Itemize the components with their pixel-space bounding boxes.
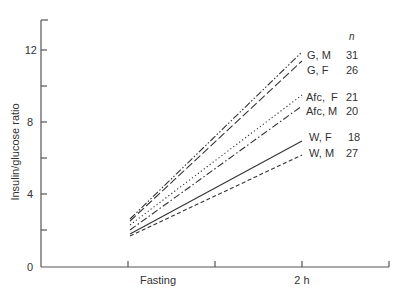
y-tick-label-0: 0 [27,261,33,273]
n-g-m: 31 [346,49,358,61]
line-afc-m [130,106,302,230]
label-afc-m: Afc, M [306,105,337,117]
label-w-m: W, M [309,147,334,159]
x-tick-label-2h: 2 h [294,274,309,286]
y-axis [41,20,48,267]
label-w-f: W, F [309,131,332,143]
y-tick-label-4: 4 [27,188,33,200]
x-axis [41,261,389,267]
n-g-f: 26 [346,64,358,76]
y-tick-label-12: 12 [25,44,37,56]
n-afc-f: 21 [346,91,358,103]
n-w-f: 18 [348,131,360,143]
x-tick-label-fasting: Fasting [140,274,176,286]
line-g-m [130,52,302,219]
chart-canvas: 0 4 8 12 Insulin/glucose ratio Fasting 2… [0,0,399,292]
label-g-f: G, F [307,64,329,76]
n-w-m: 27 [346,147,358,159]
line-afc-f [130,95,302,225]
line-g-f [130,61,302,221]
n-afc-m: 20 [346,105,358,117]
y-tick-label-8: 8 [27,116,33,128]
legend-n-header: n [349,31,355,42]
line-w-m [130,155,302,236]
y-axis-title: Insulin/glucose ratio [9,103,21,200]
line-w-f [130,141,302,234]
series-lines [130,52,302,236]
label-g-m: G, M [307,49,331,61]
label-afc-f: Afc, F [306,91,338,103]
